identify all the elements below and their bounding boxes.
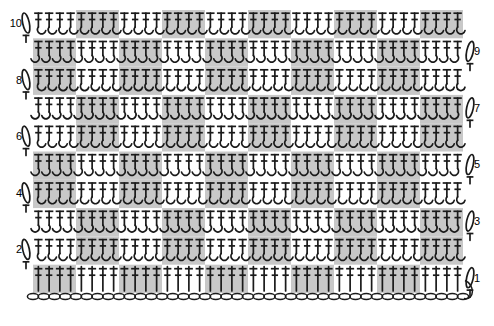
- stitch-symbol-front-post-double-crochet: [214, 98, 226, 119]
- stitch-symbol-back-post-double-crochet: [174, 70, 186, 91]
- stitch-symbol-back-post-double-crochet: [206, 126, 218, 147]
- stitch-symbol-back-post-double-crochet: [56, 13, 68, 34]
- stitch-symbol-back-post-double-crochet: [217, 13, 229, 34]
- stitch-symbol-back-post-double-crochet: [77, 70, 89, 91]
- stitch-symbol-front-post-double-crochet: [311, 211, 323, 232]
- turning-chain: [21, 12, 32, 42]
- chain-link: [70, 294, 81, 300]
- post-hook-foot: [106, 169, 114, 176]
- stitch-symbol-front-post-double-crochet: [278, 155, 290, 176]
- post-hook-foot: [338, 84, 346, 91]
- stitch-symbol-front-post-double-crochet: [106, 155, 118, 176]
- turning-chain: [21, 126, 32, 156]
- post-hook-foot: [80, 197, 88, 204]
- post-hook-foot: [59, 253, 67, 260]
- post-hook-foot: [360, 84, 368, 91]
- stitch-symbol-back-post-double-crochet: [206, 13, 218, 34]
- stitch-symbol-front-post-double-crochet: [96, 155, 108, 176]
- post-hook-foot: [182, 55, 190, 62]
- post-hook-foot: [252, 197, 260, 204]
- row-number-8: 8: [16, 74, 22, 86]
- stitch-symbol-front-post-double-crochet: [450, 42, 462, 63]
- stitch-symbol-front-post-double-crochet: [42, 98, 54, 119]
- stitch-symbol-front-post-double-crochet: [85, 42, 97, 63]
- stitch-symbol-front-post-double-crochet: [354, 42, 366, 63]
- chain-link: [404, 294, 415, 300]
- post-hook-foot: [268, 169, 276, 176]
- post-hook-foot: [278, 55, 286, 62]
- stitch-symbol-double-crochet: [77, 267, 85, 291]
- post-hook-foot: [354, 55, 362, 62]
- post-hook-foot: [364, 169, 372, 176]
- post-hook-foot: [278, 169, 286, 176]
- stitch-symbol-double-crochet: [196, 267, 204, 291]
- stitch-symbol-front-post-double-crochet: [106, 42, 118, 63]
- stitch-symbol-back-post-double-crochet: [432, 183, 444, 204]
- post-hook-foot: [392, 253, 400, 260]
- post-hook-foot: [209, 140, 217, 147]
- stitch-symbol-front-post-double-crochet: [235, 211, 247, 232]
- post-hook-foot: [145, 27, 153, 34]
- stitch-symbol-front-post-double-crochet: [128, 211, 140, 232]
- stitch-symbol-front-post-double-crochet: [407, 211, 419, 232]
- stitch-symbol-back-post-double-crochet: [174, 183, 186, 204]
- stitch-symbol-front-post-double-crochet: [225, 98, 237, 119]
- stitch-symbol-front-post-double-crochet: [354, 155, 366, 176]
- stitch-symbol-back-post-double-crochet: [292, 13, 304, 34]
- post-hook-foot: [300, 112, 308, 119]
- post-hook-foot: [63, 225, 71, 232]
- stitch-symbol-back-post-double-crochet: [206, 240, 218, 261]
- post-hook-foot: [235, 112, 243, 119]
- post-hook-foot: [209, 253, 217, 260]
- post-hook-foot: [96, 55, 104, 62]
- post-hook-foot: [139, 112, 147, 119]
- post-hook-foot: [424, 197, 432, 204]
- post-hook-foot: [257, 55, 265, 62]
- stitch-symbol-back-post-double-crochet: [453, 183, 465, 204]
- post-hook-foot: [306, 140, 314, 147]
- stitch-symbol-double-crochet: [110, 267, 118, 291]
- post-hook-foot: [53, 112, 61, 119]
- turning-chain-loop: [21, 239, 32, 260]
- post-hook-foot: [392, 27, 400, 34]
- post-hook-foot: [381, 253, 389, 260]
- stitch-symbol-double-crochet: [174, 267, 182, 291]
- chain-link: [339, 294, 350, 300]
- row-number-3: 3: [474, 215, 480, 227]
- stitch-symbol-front-post-double-crochet: [321, 211, 333, 232]
- stitch-symbol-front-post-double-crochet: [171, 155, 183, 176]
- stitch-symbol-front-post-double-crochet: [440, 42, 452, 63]
- stitch-symbol-front-post-double-crochet: [386, 98, 398, 119]
- post-hook-foot: [440, 55, 448, 62]
- post-hook-foot: [231, 253, 239, 260]
- stitch-symbol-front-post-double-crochet: [450, 155, 462, 176]
- chain-link: [296, 294, 307, 300]
- stitch-symbol-front-post-double-crochet: [300, 211, 312, 232]
- stitch-symbol-back-post-double-crochet: [314, 126, 326, 147]
- stitch-symbol-front-post-double-crochet: [31, 211, 43, 232]
- stitch-symbol-back-post-double-crochet: [34, 126, 46, 147]
- stitch-symbol-back-post-double-crochet: [292, 240, 304, 261]
- post-hook-foot: [31, 112, 39, 119]
- post-hook-foot: [317, 27, 325, 34]
- post-hook-foot: [96, 169, 104, 176]
- stitch-symbol-front-post-double-crochet: [139, 211, 151, 232]
- post-hook-foot: [364, 55, 372, 62]
- stitch-symbol-back-post-double-crochet: [131, 240, 143, 261]
- post-hook-foot: [450, 169, 458, 176]
- chain-link: [178, 294, 189, 300]
- stitch-symbol-back-post-double-crochet: [228, 126, 240, 147]
- stitch-symbol-double-crochet: [88, 267, 96, 291]
- post-hook-foot: [235, 225, 243, 232]
- post-hook-foot: [343, 55, 351, 62]
- chain-link: [361, 294, 372, 300]
- stitch-symbol-front-post-double-crochet: [300, 98, 312, 119]
- chain-link: [382, 294, 393, 300]
- turning-chain-loop: [21, 12, 32, 33]
- chain-link: [221, 294, 232, 300]
- post-hook-foot: [386, 225, 394, 232]
- stitch-symbol-back-post-double-crochet: [163, 183, 175, 204]
- stitch-symbol-back-post-double-crochet: [56, 240, 68, 261]
- post-hook-foot: [139, 225, 147, 232]
- stitch-symbol-back-post-double-crochet: [120, 126, 132, 147]
